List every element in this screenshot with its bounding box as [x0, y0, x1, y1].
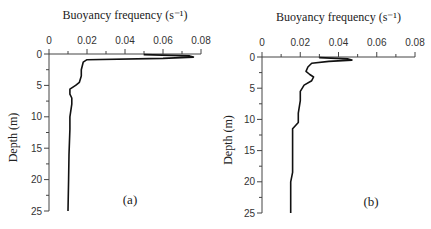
panel-a: Buoyancy frequency (s⁻¹)00.020.040.060.0…: [6, 8, 211, 217]
profile-line: [68, 55, 193, 212]
y-tick-label: 5: [249, 83, 255, 94]
x-tick-label: 0.08: [191, 35, 211, 46]
y-tick-label: 0: [249, 52, 255, 63]
x-tick-label: 0.02: [291, 37, 311, 48]
chart-figure: Buoyancy frequency (s⁻¹)00.020.040.060.0…: [0, 0, 431, 229]
y-tick-label: 15: [31, 143, 43, 154]
x-axis-title: Buoyancy frequency (s⁻¹): [63, 8, 188, 22]
panel-b: Buoyancy frequency (s⁻¹)00.020.040.060.0…: [221, 10, 425, 219]
x-tick-label: 0.08: [405, 37, 425, 48]
x-tick-label: 0: [259, 37, 265, 48]
panel-label: (b): [363, 194, 378, 209]
y-tick-label: 25: [31, 206, 43, 217]
x-tick-label: 0.06: [367, 37, 387, 48]
y-tick-label: 10: [244, 114, 256, 125]
x-tick-label: 0.02: [77, 35, 97, 46]
y-tick-label: 0: [36, 49, 42, 60]
profile-line: [291, 58, 352, 214]
y-tick-label: 20: [31, 174, 43, 185]
x-axis-title: Buoyancy frequency (s⁻¹): [276, 10, 401, 24]
y-tick-label: 5: [36, 80, 42, 91]
x-tick-label: 0.04: [329, 37, 349, 48]
y-tick-label: 10: [31, 111, 43, 122]
y-tick-label: 15: [244, 145, 256, 156]
y-axis-title: Depth (m): [6, 113, 20, 163]
panel-label: (a): [123, 192, 137, 207]
x-tick-label: 0: [46, 35, 52, 46]
y-tick-label: 20: [244, 176, 256, 187]
y-axis-title: Depth (m): [221, 115, 235, 165]
x-tick-label: 0.06: [153, 35, 173, 46]
x-tick-label: 0.04: [115, 35, 135, 46]
y-tick-label: 25: [244, 208, 256, 219]
